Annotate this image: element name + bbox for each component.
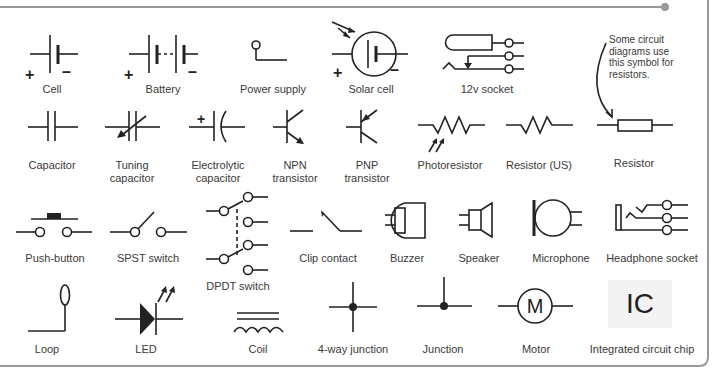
label-electrolytic: Electrolytic <box>191 159 244 172</box>
cell-minus-sign: – <box>62 63 71 80</box>
label-resistor-us: Resistor (US) <box>506 159 572 172</box>
ic-text: IC <box>626 288 654 320</box>
label-spst-switch: SPST switch <box>117 252 179 265</box>
4-way-junction-symbol <box>329 282 377 332</box>
dpdt-switch-symbol <box>206 193 268 275</box>
label-electrolytic-2: capacitor <box>196 172 241 185</box>
npn-transistor-symbol <box>273 110 304 144</box>
loop-symbol <box>28 285 70 331</box>
solar-plus-sign: + <box>333 64 342 81</box>
microphone-symbol <box>534 200 582 236</box>
photoresistor-symbol <box>418 117 485 152</box>
label-ic-chip: Integrated circuit chip <box>590 343 695 356</box>
label-coil: Coil <box>249 343 268 356</box>
ic-chip-symbol: IC <box>608 280 672 328</box>
symbols-canvas: + <box>0 0 712 370</box>
label-speaker: Speaker <box>459 252 500 265</box>
resistor-symbol <box>597 120 673 131</box>
spst-switch-symbol <box>110 212 187 237</box>
svg-text:M: M <box>527 295 544 317</box>
solar-minus-sign: – <box>390 61 399 78</box>
label-npn-2: transistor <box>272 172 317 185</box>
led-symbol <box>115 286 183 335</box>
label-pnp-2: transistor <box>344 172 389 185</box>
clip-contact-symbol <box>290 210 362 231</box>
buzzer-symbol <box>385 203 425 238</box>
label-4-way-junction: 4-way junction <box>318 343 388 356</box>
label-tuning: Tuning <box>115 159 148 172</box>
motor-symbol: M <box>498 289 573 323</box>
label-battery: Battery <box>146 83 181 96</box>
label-loop: Loop <box>35 343 59 356</box>
label-12v-socket: 12v socket <box>461 83 514 96</box>
label-push-button: Push-button <box>25 252 84 265</box>
label-microphone: Microphone <box>532 252 589 265</box>
speaker-symbol <box>459 203 492 237</box>
circuit-symbols-diagram: + <box>0 0 712 370</box>
label-motor: Motor <box>522 343 550 356</box>
label-dpdt-switch: DPDT switch <box>206 280 269 293</box>
tuning-capacitor-symbol <box>105 111 160 141</box>
label-capacitor: Capacitor <box>28 159 75 172</box>
headphone-socket-symbol <box>616 201 688 235</box>
label-led: LED <box>135 343 156 356</box>
svg-text:+: + <box>197 111 205 127</box>
pnp-transistor-symbol <box>346 110 377 143</box>
label-buzzer: Buzzer <box>390 252 424 265</box>
resistor-note: Some circuit diagrams use this symbol fo… <box>609 34 679 80</box>
coil-symbol <box>234 313 283 332</box>
label-npn: NPN <box>283 159 306 172</box>
label-junction: Junction <box>423 343 464 356</box>
capacitor-symbol <box>28 111 78 141</box>
battery-minus-sign: – <box>188 63 197 80</box>
12v-socket-symbol <box>443 35 524 73</box>
resistor-us-symbol <box>506 117 573 133</box>
label-photoresistor: Photoresistor <box>418 159 483 172</box>
label-clip-contact: Clip contact <box>299 252 356 265</box>
push-button-symbol <box>16 213 92 237</box>
label-cell: Cell <box>43 83 62 96</box>
power-supply-symbol <box>252 41 287 60</box>
label-headphone-socket: Headphone socket <box>606 252 698 265</box>
electrolytic-capacitor-symbol: + <box>189 111 245 142</box>
cell-plus-sign: + <box>25 66 34 83</box>
junction-symbol <box>417 277 472 310</box>
battery-plus-sign: + <box>124 66 133 83</box>
label-tuning-2: capacitor <box>110 172 155 185</box>
label-resistor: Resistor <box>614 157 654 170</box>
label-solar-cell: Solar cell <box>348 83 393 96</box>
label-power-supply: Power supply <box>240 83 306 96</box>
label-pnp: PNP <box>356 159 379 172</box>
